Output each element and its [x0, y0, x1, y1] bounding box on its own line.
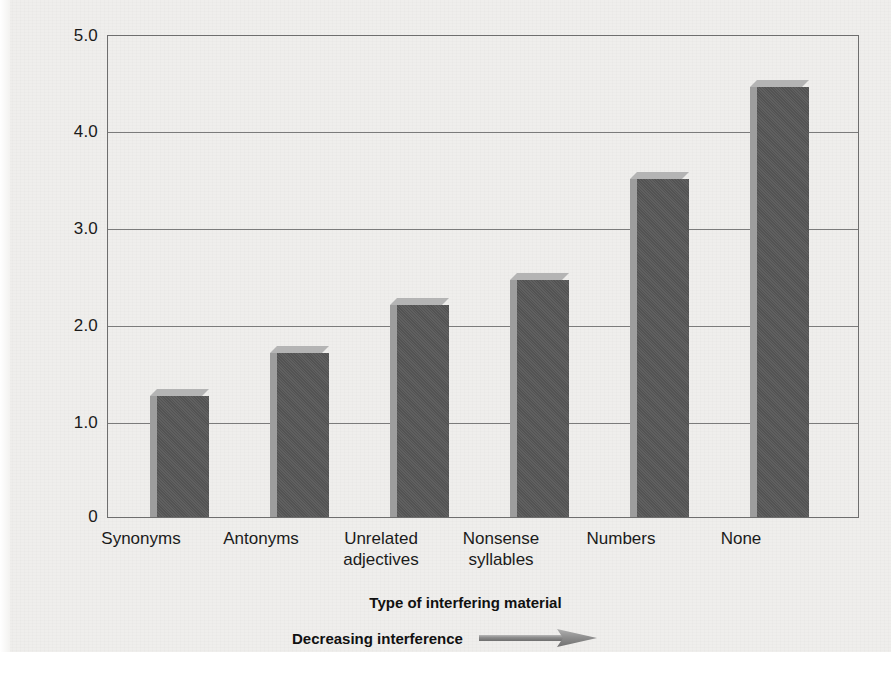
bar-nonsense-syllables — [510, 280, 562, 517]
bar-side-face — [270, 353, 277, 517]
bar-top-face — [150, 389, 209, 396]
gridline-4 — [108, 132, 858, 133]
bar-side-face — [750, 87, 757, 517]
y-tick-label-1: 1.0 — [48, 413, 98, 433]
bar-front-face — [637, 179, 689, 517]
chart-page: Mean number of test items recalled 5.0 4… — [0, 0, 891, 690]
bar-side-face — [150, 396, 157, 517]
bar-unrelated-adjectives — [390, 305, 442, 517]
bar-front-face — [277, 353, 329, 517]
bar-side-face — [510, 280, 517, 517]
x-tick-label-unrelated-adjectives: Unrelated adjectives — [321, 528, 441, 571]
plot-area — [107, 35, 859, 518]
bar-front-face — [757, 87, 809, 517]
bar-front-face — [397, 305, 449, 517]
right-arrow-icon — [479, 626, 599, 650]
bar-top-face — [630, 172, 689, 179]
bar-numbers — [630, 179, 682, 517]
bar-front-face — [517, 280, 569, 517]
y-tick-label-2: 2.0 — [48, 316, 98, 336]
bar-top-face — [390, 298, 449, 305]
bar-none — [750, 87, 802, 517]
y-tick-label-0: 0 — [48, 507, 98, 527]
decreasing-interference-annotation: Decreasing interference — [0, 626, 891, 650]
x-axis-title: Type of interfering material — [20, 594, 891, 611]
x-tick-label-numbers: Numbers — [561, 528, 681, 549]
gridline-3 — [108, 229, 858, 230]
x-tick-label-synonyms: Synonyms — [81, 528, 201, 549]
gridline-1 — [108, 423, 858, 424]
scan-left-edge — [0, 0, 10, 690]
bar-top-face — [270, 346, 329, 353]
x-tick-label-none: None — [681, 528, 801, 549]
bar-side-face — [630, 179, 637, 517]
x-tick-label-antonyms: Antonyms — [201, 528, 321, 549]
scan-bottom-strip — [0, 652, 891, 690]
gridline-2 — [108, 326, 858, 327]
bar-antonyms — [270, 353, 322, 517]
decreasing-interference-label: Decreasing interference — [292, 630, 463, 647]
y-tick-label-3: 3.0 — [48, 219, 98, 239]
x-tick-label-nonsense-syllables: Nonsense syllables — [441, 528, 561, 571]
y-tick-label-5: 5.0 — [48, 26, 98, 46]
bar-side-face — [390, 305, 397, 517]
bar-front-face — [157, 396, 209, 517]
bar-top-face — [750, 80, 809, 87]
bar-top-face — [510, 273, 569, 280]
y-tick-label-4: 4.0 — [48, 122, 98, 142]
bar-synonyms — [150, 396, 202, 517]
